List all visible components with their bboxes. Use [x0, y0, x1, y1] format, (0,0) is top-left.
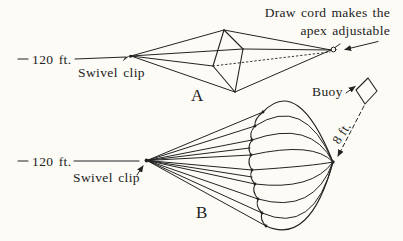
buoy-arrow: [346, 87, 355, 94]
draw-cord-annotation-line1: Draw cord makes the: [265, 4, 390, 22]
figure-b-label: B: [196, 203, 208, 223]
canopy-gores: [251, 101, 333, 230]
figure-a-label: A: [191, 86, 204, 106]
kite-frame: [213, 30, 243, 92]
fishing-kite-and-parachute-diagram: 120 ft. Swivel clip Draw cord makes the …: [0, 0, 403, 241]
draw-cord-annotation: Draw cord makes the apex adjustable: [265, 4, 390, 40]
apex-knot: [331, 44, 340, 52]
annotation-arrow: [345, 42, 378, 50]
swivel-clip-label-a: Swivel clip: [78, 64, 145, 81]
bridle-lines-a: [131, 30, 243, 92]
draw-cord-annotation-line2: apex adjustable: [265, 22, 390, 40]
draw-cord-dotted: [213, 52, 330, 66]
distance-label-a: 120 ft.: [32, 51, 72, 68]
buoy-label: Buoy: [312, 83, 343, 100]
distance-label-b: 120 ft.: [32, 153, 72, 170]
apex-dot: [331, 160, 334, 163]
swivel-clip-label-b: Swivel clip: [73, 169, 140, 186]
buoy-diamond: [356, 78, 377, 104]
